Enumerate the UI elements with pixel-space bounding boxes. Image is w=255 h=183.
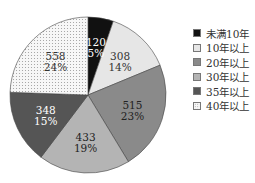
legend-item: 20年以上 (193, 55, 249, 70)
slice-percent-label: 14% (108, 61, 131, 73)
legend-item: 35年以上 (193, 84, 249, 99)
slice-percent-label: 24% (44, 61, 67, 73)
legend-swatch (193, 44, 201, 52)
slice-percent-label: 19% (74, 142, 97, 154)
legend: 未满10年 10年以上 20年以上 30年以上 35年以上 40年以上 (193, 26, 249, 113)
slice-percent-label: 23% (121, 110, 144, 122)
legend-label: 35年以上 (206, 84, 249, 99)
legend-item: 40年以上 (193, 99, 249, 114)
legend-item: 未满10年 (193, 26, 249, 41)
legend-label: 未满10年 (206, 26, 249, 41)
legend-swatch (193, 73, 201, 81)
legend-swatch (193, 29, 201, 37)
slice-percent-label: 15% (34, 115, 57, 127)
legend-label: 10年以上 (206, 40, 249, 55)
legend-swatch (193, 87, 201, 95)
pie-chart: 1205%30814%51523%43319%34815%55824% (0, 0, 185, 183)
slice-percent-label: 5% (88, 47, 105, 59)
legend-label: 30年以上 (206, 69, 249, 84)
legend-swatch (193, 58, 201, 66)
legend-item: 30年以上 (193, 70, 249, 85)
legend-item: 10年以上 (193, 41, 249, 56)
legend-swatch (193, 102, 201, 110)
legend-label: 40年以上 (206, 98, 249, 113)
legend-label: 20年以上 (206, 55, 249, 70)
